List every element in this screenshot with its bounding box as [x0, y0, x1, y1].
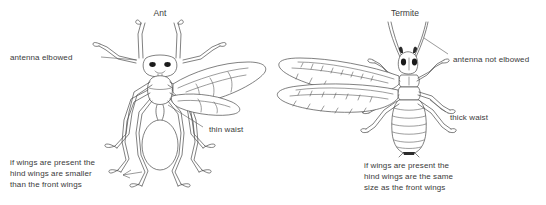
termite-waist-label: thick waist	[450, 112, 488, 123]
ant-wings-label-line3: than the front wings	[10, 179, 82, 190]
ant-hindwing	[171, 94, 239, 115]
ant-waist-label: thin waist	[209, 124, 243, 135]
termite-title: Termite	[375, 8, 435, 18]
termite-wings-label-line3: size as the front wings	[364, 182, 445, 193]
termite-hindwing	[277, 84, 398, 114]
ant-eye-right	[164, 62, 170, 67]
ant-antenna-left	[136, 20, 145, 58]
termite-wings-label-line2: hind wings are the same	[364, 171, 453, 182]
ant-thorax	[148, 76, 173, 105]
ant-eye-left	[149, 62, 155, 67]
ant-antenna-label: antenna elbowed	[10, 52, 72, 63]
diagram-canvas: Ant antenna elbowed thin waist if wings …	[0, 0, 546, 205]
ant-antenna-right	[174, 20, 183, 58]
termite-illustration	[277, 22, 456, 157]
termite-eye-left	[401, 59, 406, 66]
termite-eye-right	[412, 59, 417, 66]
ant-antenna-left-outer	[93, 43, 136, 64]
termite-head	[398, 52, 417, 74]
termite-thorax	[398, 75, 421, 100]
ant-illustration	[93, 20, 266, 187]
termite-wings-label-line1: if wings are present the	[364, 160, 449, 171]
termite-leader-lines	[424, 38, 448, 112]
ant-abdomen	[142, 120, 178, 170]
ant-title: Ant	[130, 8, 190, 18]
ant-head	[143, 55, 177, 77]
termite-antenna-label: antenna not elbowed	[453, 54, 529, 65]
ant-waist	[156, 105, 164, 120]
leader-termite-antenna	[424, 38, 448, 54]
ant-wings-label-line1: if wings are present the	[10, 157, 95, 168]
termite-antenna-left	[388, 22, 402, 57]
ant-antenna-right-outer	[183, 43, 226, 64]
ant-wings-label-line2: hind wings are smaller	[10, 168, 92, 179]
termite-abdomen	[392, 100, 426, 157]
